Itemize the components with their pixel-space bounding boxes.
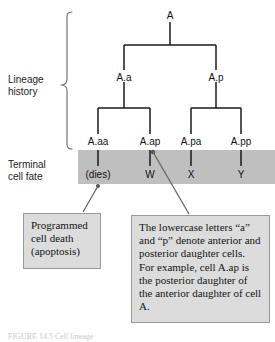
node-label-A-aa: A.aa [88,136,109,147]
lineage-tree-lines [98,22,241,166]
leader-apoptosis [83,184,100,212]
node-label-A-pa: A.pa [181,136,202,147]
node-label-A-a: A.a [116,72,131,83]
lineage-history-label: Lineage history [8,74,62,97]
terminal-fate-A-pp: Y [238,169,245,180]
lineage-history-bracket [61,12,72,149]
cell-lineage-figure: Lineage history Terminal cell fate A A.a… [0,0,275,342]
callout-nomenclature: The lowercase letters “a” and “p” denote… [131,215,270,323]
node-label-A-ap: A.ap [140,136,161,147]
node-label-A-pp: A.pp [231,136,252,147]
leader-apoptosis-line [83,186,98,212]
node-label-A-p: A.p [208,72,223,83]
terminal-fate-A-pa: X [188,169,195,180]
callout-programmed-cell-death: Programmed cell death (apoptosis) [23,213,101,269]
terminal-cell-fate-label: Terminal cell fate [8,159,70,182]
terminal-fate-A-ap: W [145,169,154,180]
terminal-fate-A-aa: (dies) [85,169,110,180]
figure-caption-fragment: FIGURE 14.5 Cell lineage [8,332,158,341]
node-label-A: A [167,10,174,21]
